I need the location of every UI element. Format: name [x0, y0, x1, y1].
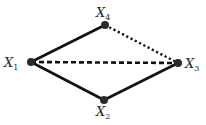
label-x1: X1	[3, 55, 18, 72]
node-x4	[101, 21, 109, 29]
edge-x1-x2	[31, 62, 104, 100]
edge-x1-x4	[31, 25, 105, 62]
edge-x4-x3-dotted	[105, 25, 178, 63]
node-x3	[174, 59, 182, 67]
graph-diagram: X4 X1 X3 X2	[0, 0, 206, 125]
node-x2	[100, 96, 108, 104]
label-x2: X2	[95, 104, 110, 121]
node-x1	[27, 58, 35, 66]
edge-x2-x3	[104, 63, 178, 100]
label-x3: X3	[184, 56, 199, 73]
edge-x1-x3-dashed	[31, 62, 178, 63]
label-x4: X4	[95, 5, 110, 22]
